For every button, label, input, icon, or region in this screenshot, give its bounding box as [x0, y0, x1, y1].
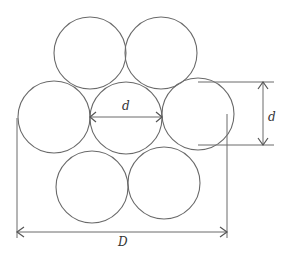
circle-middle-right: [162, 78, 234, 150]
circle-middle-center: [90, 82, 162, 154]
inner-diameter-label: d: [122, 99, 130, 113]
circle-packing-diagram: d d D: [0, 0, 286, 260]
circle-bottom-left: [56, 151, 128, 223]
circle-middle-left: [18, 81, 90, 153]
overall-diameter-dimension: D: [17, 114, 227, 249]
overall-diameter-label: D: [117, 235, 128, 249]
circles: [18, 17, 234, 223]
side-diameter-label: d: [268, 110, 276, 124]
inner-diameter-dimension: d: [90, 99, 162, 122]
circle-top-right: [125, 17, 197, 89]
side-diameter-dimension: d: [198, 82, 276, 145]
circle-top-left: [54, 17, 126, 89]
circle-bottom-right: [128, 147, 200, 219]
